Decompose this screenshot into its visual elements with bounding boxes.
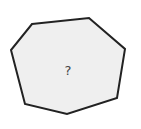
polygon-diagram: ?	[0, 0, 141, 129]
unknown-label: ?	[65, 63, 72, 78]
